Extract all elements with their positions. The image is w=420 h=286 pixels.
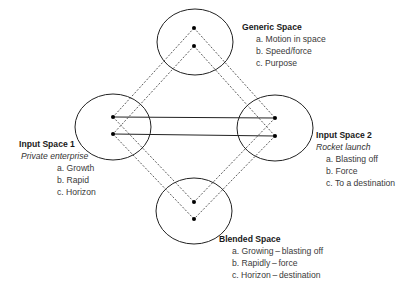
node-dot: [192, 200, 196, 204]
projection-line: [113, 46, 194, 134]
input-space-2-circle: [237, 95, 313, 161]
node-dot: [111, 115, 115, 119]
blended-space-title: Blended Space: [219, 233, 281, 245]
input-space-1-item: a. Growth: [57, 162, 94, 174]
projection-line: [113, 117, 194, 202]
node-dot: [192, 217, 196, 221]
mapping-line: [113, 134, 275, 136]
node-dot: [192, 44, 196, 48]
generic-space-title: Generic Space: [242, 21, 302, 33]
blended-space-item: b. Rapidly – force: [232, 257, 298, 269]
projection-line: [113, 28, 194, 117]
generic-space-item: a. Motion in space: [256, 33, 326, 45]
input-space-1-item: b. Rapid: [57, 174, 89, 186]
generic-space-circle: [157, 9, 233, 75]
input-space-2-title: Input Space 2: [316, 129, 372, 141]
node-dot: [192, 26, 196, 30]
blended-space-item: a. Growing – blasting off: [232, 245, 323, 257]
node-dot: [111, 132, 115, 136]
blended-space-item: c. Horizon – destination: [232, 269, 320, 281]
generic-space-item: b. Speed/force: [256, 45, 312, 57]
input-space-1-item: c. Horizon: [57, 186, 96, 198]
projection-line: [194, 136, 275, 219]
input-space-2-subtitle: Rocket launch: [316, 141, 370, 153]
input-space-2-item: c. To a destination: [326, 177, 395, 189]
input-space-2-item: a. Blasting off: [326, 153, 378, 165]
input-space-1-title: Input Space 1: [19, 138, 75, 150]
input-space-2-item: b. Force: [326, 165, 358, 177]
projection-line: [113, 134, 194, 219]
input-space-1-subtitle: Private enterprise: [21, 150, 88, 162]
projection-line: [194, 118, 275, 202]
node-dot: [273, 116, 277, 120]
generic-space-item: c. Purpose: [256, 57, 297, 69]
mapping-line: [113, 117, 275, 118]
node-dot: [273, 134, 277, 138]
